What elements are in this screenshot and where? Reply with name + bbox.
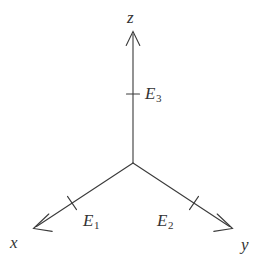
axis-label-z: z [127, 9, 134, 26]
coordinate-axes-figure: z x y E3 E1 E2 [0, 0, 267, 269]
basis-label-e2-subscript: 2 [168, 219, 174, 231]
basis-label-e3-base: E [145, 84, 155, 103]
basis-label-e2: E2 [157, 212, 173, 231]
axis-x-tick [68, 196, 77, 209]
axis-y [133, 163, 233, 231]
axis-label-x: x [10, 234, 18, 251]
basis-label-e1-base: E [83, 211, 93, 230]
axis-z [126, 32, 140, 164]
basis-label-e1-subscript: 1 [94, 219, 100, 231]
axes-svg [0, 0, 267, 269]
axis-y-tick [190, 196, 199, 209]
basis-label-e2-base: E [157, 211, 167, 230]
axis-label-y: y [241, 236, 249, 253]
basis-label-e3-subscript: 3 [156, 92, 162, 104]
basis-label-e3: E3 [145, 85, 161, 104]
basis-label-e1: E1 [83, 212, 99, 231]
axis-y-line [133, 163, 230, 227]
